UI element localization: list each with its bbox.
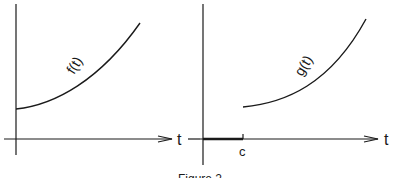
left-panel: f(t) t xyxy=(4,4,200,155)
left-x-axis-label: t xyxy=(177,131,182,148)
figure-caption: Figure 2 xyxy=(178,172,222,178)
figure-canvas: f(t) t c g(t) t Figure 2 xyxy=(0,0,394,178)
c-tick-label: c xyxy=(239,144,246,159)
right-x-axis-label: t xyxy=(384,131,389,148)
f-curve-label: f(t) xyxy=(63,54,86,77)
g-curve-label: g(t) xyxy=(291,52,316,78)
right-panel: c g(t) t xyxy=(200,4,389,165)
